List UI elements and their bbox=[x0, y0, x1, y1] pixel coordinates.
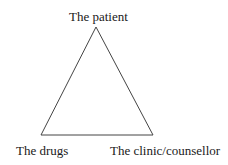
triangle-diagram bbox=[0, 0, 228, 165]
vertex-label-patient: The patient bbox=[69, 10, 128, 23]
vertex-label-drugs: The drugs bbox=[16, 144, 68, 157]
vertex-label-clinic-counsellor: The clinic/counsellor bbox=[110, 144, 220, 157]
triangle-shape bbox=[41, 27, 153, 135]
